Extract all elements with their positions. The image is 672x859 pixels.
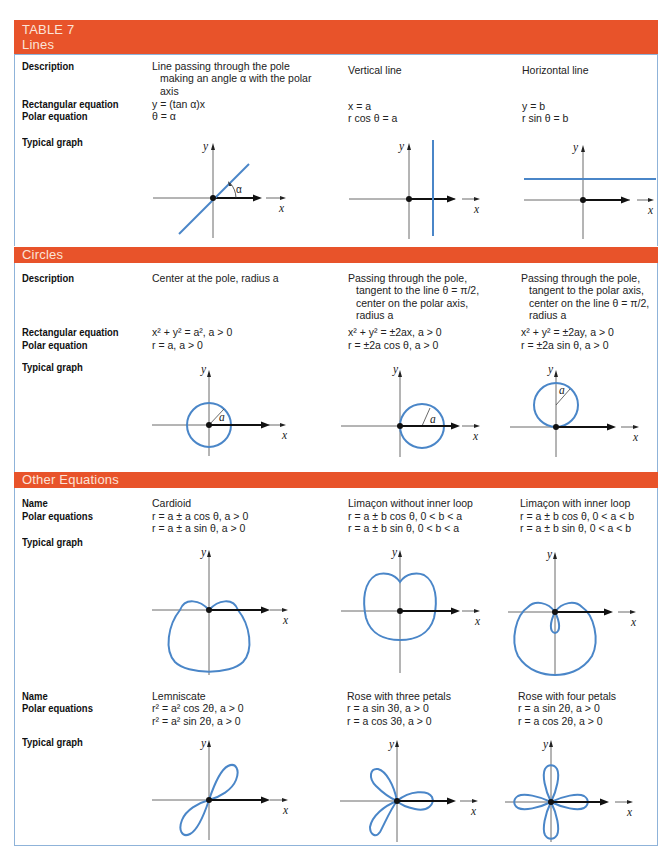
x-label: x bbox=[627, 806, 632, 818]
graph-rose-4 bbox=[0, 0, 672, 859]
y-label: y bbox=[543, 738, 548, 750]
y-axis-label: y bbox=[543, 738, 548, 750]
x-axis-label: x bbox=[627, 806, 632, 818]
